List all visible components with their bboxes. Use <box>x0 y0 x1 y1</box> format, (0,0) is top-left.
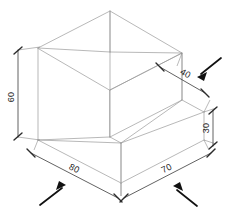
pointer-bottom-right-head <box>173 182 183 191</box>
dim-label-60: 60 <box>6 92 16 102</box>
dimension-height-60: 60 <box>6 47 40 140</box>
pointer-bottom-left-arrow-icon <box>40 181 66 205</box>
step-right-top-edge <box>182 100 204 112</box>
ext-line-60-bottom <box>18 137 40 140</box>
pointer-bottom-right-arrow-icon <box>173 182 197 206</box>
isometric-drawing-canvas: 60 40 30 80 <box>0 0 230 218</box>
pointer-bottom-left-shaft <box>40 188 62 205</box>
dim-tick-70-start <box>207 149 215 157</box>
pointer-upper-right-shaft <box>201 58 221 74</box>
dim-tick-40-end <box>201 89 209 97</box>
drawing-svg: 60 40 30 80 <box>0 0 230 218</box>
dimension-height-30: 30 <box>201 107 217 149</box>
pointer-upper-right-arrow-icon <box>197 58 221 81</box>
object-geometry <box>38 11 204 183</box>
pointer-bottom-right-shaft <box>177 190 197 206</box>
dim-tick-80-start <box>27 149 35 157</box>
dim-label-30: 30 <box>201 123 211 133</box>
ext-line-80-start <box>34 140 38 150</box>
dim-label-40: 40 <box>178 66 192 80</box>
